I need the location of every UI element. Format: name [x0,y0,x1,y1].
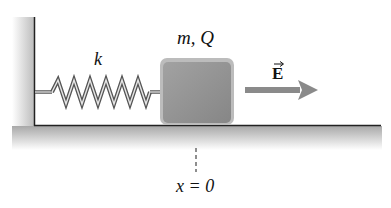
field-label: E [272,64,283,84]
floor [12,126,382,151]
block-label: m, Q [177,27,214,49]
spring [35,80,161,104]
spring-constant-label: k [94,49,102,70]
wall [12,17,35,127]
position-label: x = 0 [176,176,214,197]
block [160,58,234,125]
